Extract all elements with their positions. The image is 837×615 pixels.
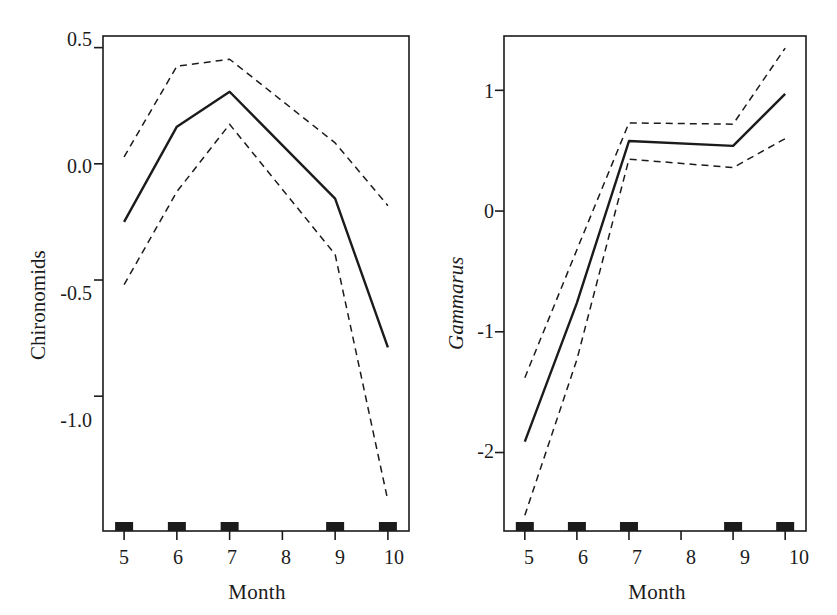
rug-mark xyxy=(568,522,586,531)
rug-mark xyxy=(620,522,638,531)
figure-canvas: 0.5 0.0 -0.5 -1.0 5 6 7 8 9 10 Month Chi… xyxy=(0,0,837,615)
rug-mark xyxy=(221,522,239,531)
x-axis-title: Month xyxy=(504,580,810,605)
x-tick-label: 8 xyxy=(665,546,717,569)
x-tick-label: 7 xyxy=(611,546,663,569)
y-axis-title: Chironomids xyxy=(26,250,51,360)
y-tick-label: -1.0 xyxy=(30,409,92,432)
x-tick-label: 9 xyxy=(719,546,771,569)
x-tick-label: 6 xyxy=(152,546,204,569)
y-tick-label: 0.5 xyxy=(38,28,92,51)
fitted-line xyxy=(525,94,785,442)
y-tick-label: -2 xyxy=(448,440,494,463)
x-tick-label: 8 xyxy=(260,546,312,569)
x-tick-label: 7 xyxy=(206,546,258,569)
plot-frame xyxy=(103,36,409,531)
x-tick-label: 5 xyxy=(503,546,555,569)
x-tick-label: 9 xyxy=(314,546,366,569)
fitted-line xyxy=(124,92,388,348)
x-tick-label: 10 xyxy=(773,546,825,569)
plot-frame xyxy=(504,36,806,531)
rug-mark xyxy=(516,522,534,531)
x-axis-title: Month xyxy=(104,580,410,605)
y-axis-title: Gammarus xyxy=(444,257,469,350)
chironomids-plot-area xyxy=(0,0,420,615)
y-tick-label: 0.0 xyxy=(38,155,92,178)
x-tick-label: 10 xyxy=(368,546,420,569)
rug-mark xyxy=(379,522,397,531)
x-tick-label: 6 xyxy=(557,546,609,569)
confidence-band-line xyxy=(124,59,388,205)
y-tick-label: 0 xyxy=(456,200,494,223)
rug-mark xyxy=(168,522,186,531)
rug-mark xyxy=(776,522,794,531)
rug-mark xyxy=(115,522,133,531)
confidence-band-line xyxy=(124,124,388,500)
x-tick-label: 5 xyxy=(98,546,150,569)
rug-mark xyxy=(724,522,742,531)
panel-gammarus: 1 0 -1 -2 5 6 7 8 9 10 Month Gammarus xyxy=(420,0,837,615)
confidence-band-line xyxy=(525,48,785,378)
y-tick-label: 1 xyxy=(456,80,494,103)
rug-mark xyxy=(326,522,344,531)
confidence-band-line xyxy=(525,139,785,516)
panel-chironomids: 0.5 0.0 -0.5 -1.0 5 6 7 8 9 10 Month Chi… xyxy=(0,0,420,615)
